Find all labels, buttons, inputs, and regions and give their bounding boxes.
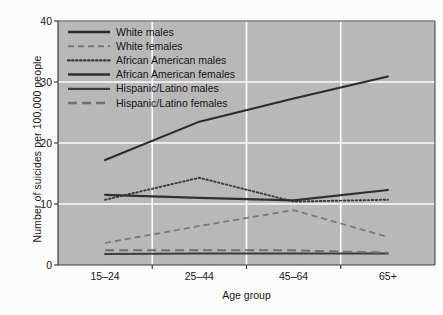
legend-label-white-females: White females [116, 41, 183, 52]
x-tick-label: 25–44 [169, 270, 229, 282]
suicide-rate-line-chart: 0 10 20 30 40 15–24 25–44 45–64 65+ Numb… [0, 0, 443, 315]
legend-label-african-american-males: African American males [116, 55, 226, 66]
gridlines [58, 21, 435, 265]
legend-line-swatches [68, 32, 110, 103]
x-tick-label: 45–64 [264, 270, 324, 282]
x-tick-label: 15–24 [75, 270, 135, 282]
x-tick-label: 65+ [358, 270, 418, 282]
chart-canvas [0, 0, 443, 315]
legend-label-african-american-females: African American females [116, 69, 235, 80]
legend-label-hispanic-latino-females: Hispanic/Latino females [116, 98, 227, 109]
y-axis-title: Number of suicides per 100,000 people [31, 24, 43, 274]
axis-lines [54, 21, 435, 269]
legend-label-hispanic-latino-males: Hispanic/Latino males [116, 83, 219, 94]
legend-label-white-males: White males [116, 27, 174, 38]
x-axis-title: Age group [58, 289, 435, 301]
